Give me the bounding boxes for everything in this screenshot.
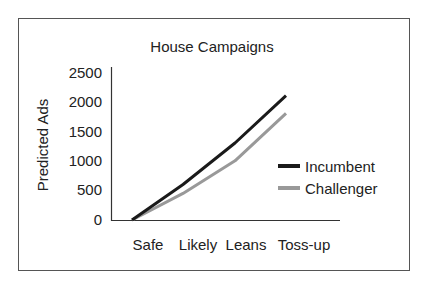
- legend-item-incumbent: Incumbent: [278, 155, 378, 177]
- x-tick-tossup: Toss-up: [278, 236, 331, 253]
- legend: Incumbent Challenger: [278, 155, 378, 199]
- x-tick-leans: Leans: [226, 236, 267, 253]
- legend-item-challenger: Challenger: [278, 177, 378, 199]
- x-tick-safe: Safe: [133, 236, 164, 253]
- legend-label-challenger: Challenger: [305, 180, 378, 197]
- legend-swatch-challenger: [278, 186, 300, 190]
- legend-label-incumbent: Incumbent: [305, 158, 375, 175]
- x-tick-likely: Likely: [179, 236, 217, 253]
- series-line-incumbent: [132, 96, 286, 220]
- legend-swatch-incumbent: [278, 164, 300, 168]
